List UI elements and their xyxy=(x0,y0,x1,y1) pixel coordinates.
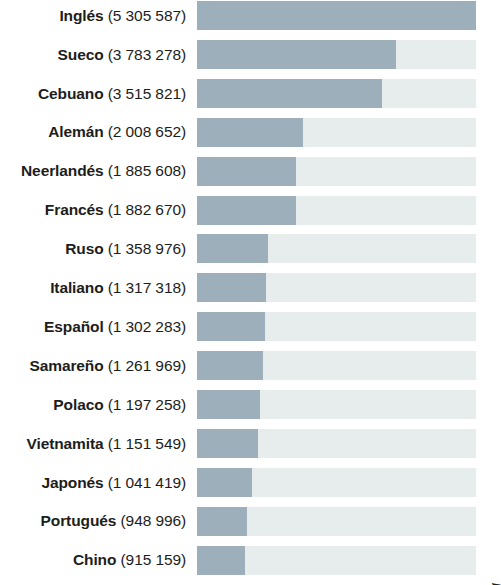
bar-row-label: Alemán (2 008 652) xyxy=(0,124,197,140)
bar-fill xyxy=(197,390,260,419)
article-count: (1 261 969) xyxy=(108,357,186,374)
bar-track xyxy=(197,468,476,497)
bar-chart: Inglés (5 305 587)Sueco (3 783 278)Cebua… xyxy=(0,0,501,585)
article-count: (2 008 652) xyxy=(108,123,186,140)
bar-fill xyxy=(197,196,296,225)
bar-track xyxy=(197,157,476,186)
bar-row-label: Chino (915 159) xyxy=(0,552,197,568)
language-name: Sueco xyxy=(58,46,104,63)
bar-row-label: Español (1 302 283) xyxy=(0,319,197,335)
bar-track xyxy=(197,1,476,30)
bar-track xyxy=(197,79,476,108)
bar-row-label: Polaco (1 197 258) xyxy=(0,397,197,413)
bar-fill xyxy=(197,118,303,147)
language-name: Español xyxy=(44,318,104,335)
article-count: (915 159) xyxy=(121,551,186,568)
language-name: Vietnamita xyxy=(26,435,103,452)
language-name: Francés xyxy=(45,201,104,218)
bar-track xyxy=(197,196,476,225)
language-name: Cebuano xyxy=(38,85,104,102)
bar-row: Sueco (3 783 278) xyxy=(0,40,501,69)
language-name: Portugués xyxy=(41,512,117,529)
bar-fill xyxy=(197,234,268,263)
bar-fill xyxy=(197,429,258,458)
bar-row: Inglés (5 305 587) xyxy=(0,1,501,30)
bar-row: Alemán (2 008 652) xyxy=(0,118,501,147)
bar-fill xyxy=(197,507,247,536)
bar-row: Ruso (1 358 976) xyxy=(0,234,501,263)
bar-fill xyxy=(197,79,382,108)
bar-row: Samareño (1 261 969) xyxy=(0,351,501,380)
bar-row: Polaco (1 197 258) xyxy=(0,390,501,419)
bar-fill xyxy=(197,273,266,302)
bar-track xyxy=(197,312,476,341)
language-name: Alemán xyxy=(48,123,103,140)
article-count: (1 151 549) xyxy=(108,435,186,452)
source-note-wrap: Fuente: www.es.wikipedia.org xyxy=(483,355,501,585)
bar-row: Neerlandés (1 885 608) xyxy=(0,157,501,186)
language-name: Polaco xyxy=(53,396,103,413)
bar-fill xyxy=(197,468,252,497)
bar-row: Portugués (948 996) xyxy=(0,507,501,536)
article-count: (1 885 608) xyxy=(108,162,186,179)
bar-row: Francés (1 882 670) xyxy=(0,196,501,225)
bar-row: Chino (915 159) xyxy=(0,546,501,575)
bar-track xyxy=(197,234,476,263)
language-name: Samareño xyxy=(29,357,103,374)
bar-row: Japonés (1 041 419) xyxy=(0,468,501,497)
article-count: (3 515 821) xyxy=(108,85,186,102)
bar-row: Español (1 302 283) xyxy=(0,312,501,341)
bar-track xyxy=(197,351,476,380)
bar-row-label: Sueco (3 783 278) xyxy=(0,47,197,63)
article-count: (948 996) xyxy=(121,512,186,529)
bar-row-label: Ruso (1 358 976) xyxy=(0,241,197,257)
language-name: Neerlandés xyxy=(21,162,104,179)
bar-row: Vietnamita (1 151 549) xyxy=(0,429,501,458)
bar-track xyxy=(197,429,476,458)
article-count: (1 358 976) xyxy=(108,240,186,257)
language-name: Ruso xyxy=(65,240,103,257)
bar-track xyxy=(197,40,476,69)
language-name: Chino xyxy=(73,551,116,568)
bar-row-label: Japonés (1 041 419) xyxy=(0,475,197,491)
bar-track xyxy=(197,118,476,147)
bar-row-label: Portugués (948 996) xyxy=(0,513,197,529)
bar-row-label: Samareño (1 261 969) xyxy=(0,358,197,374)
bar-fill xyxy=(197,312,265,341)
bar-fill xyxy=(197,40,396,69)
bar-row-label: Francés (1 882 670) xyxy=(0,202,197,218)
article-count: (3 783 278) xyxy=(108,46,186,63)
article-count: (1 302 283) xyxy=(108,318,186,335)
article-count: (1 317 318) xyxy=(108,279,186,296)
language-name: Japonés xyxy=(41,474,103,491)
article-count: (5 305 587) xyxy=(108,7,186,24)
bar-row: Cebuano (3 515 821) xyxy=(0,79,501,108)
bar-row-label: Inglés (5 305 587) xyxy=(0,8,197,24)
bar-track xyxy=(197,546,476,575)
bar-fill xyxy=(197,157,296,186)
bar-row-label: Cebuano (3 515 821) xyxy=(0,86,197,102)
article-count: (1 882 670) xyxy=(108,201,186,218)
language-name: Inglés xyxy=(59,7,103,24)
article-count: (1 041 419) xyxy=(108,474,186,491)
bar-track xyxy=(197,273,476,302)
bar-row: Italiano (1 317 318) xyxy=(0,273,501,302)
article-count: (1 197 258) xyxy=(108,396,186,413)
bar-row-label: Italiano (1 317 318) xyxy=(0,280,197,296)
bar-fill xyxy=(197,1,476,30)
bar-row-label: Neerlandés (1 885 608) xyxy=(0,163,197,179)
bar-track xyxy=(197,507,476,536)
bar-row-label: Vietnamita (1 151 549) xyxy=(0,436,197,452)
bar-fill xyxy=(197,546,245,575)
bar-track xyxy=(197,390,476,419)
bar-fill xyxy=(197,351,263,380)
language-name: Italiano xyxy=(50,279,103,296)
